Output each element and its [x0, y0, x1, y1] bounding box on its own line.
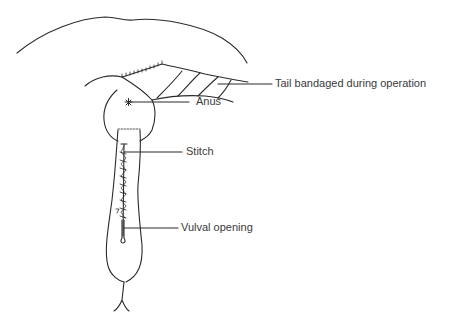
label-stitch: Stitch — [186, 146, 214, 157]
bandage-wrap-1 — [157, 71, 182, 98]
bandage-wrap-2 — [178, 73, 200, 96]
perineum-outline — [104, 90, 155, 141]
stitch-end-mark — [116, 209, 119, 213]
label-anus: Anus — [196, 96, 221, 107]
rump-outline — [17, 17, 247, 63]
tail-upper-edge — [85, 64, 248, 86]
label-tail-bandaged: Tail bandaged during operation — [275, 78, 426, 89]
label-vulval-opening: Vulval opening — [181, 222, 253, 233]
tail-left-edge — [122, 77, 152, 100]
bandage-wrap-3 — [198, 77, 218, 96]
vulva-right-outline — [126, 130, 142, 282]
bottom-stem — [114, 282, 129, 311]
anatomy-diagram — [0, 0, 461, 318]
